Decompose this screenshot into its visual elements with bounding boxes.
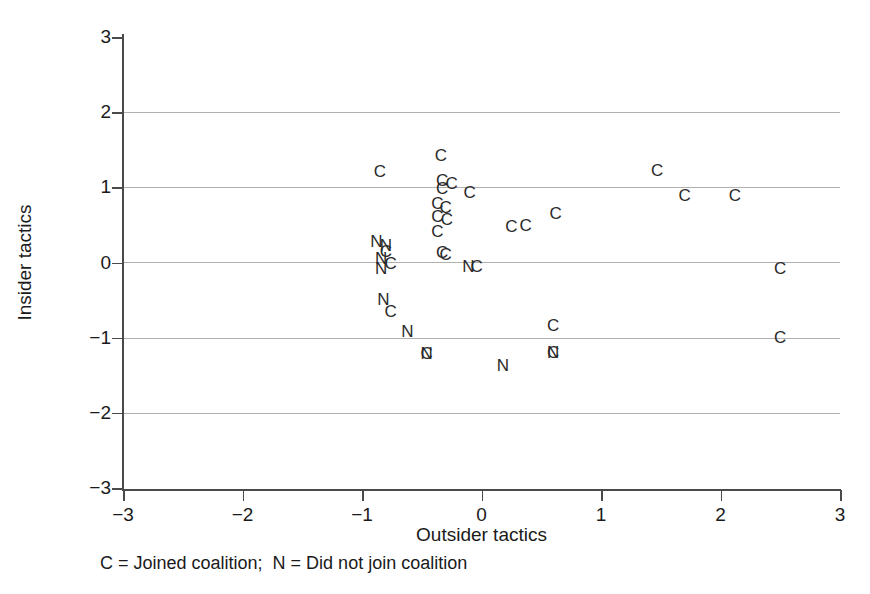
y-tick-label-4: −1 [71, 328, 111, 347]
legend-caption: C = Joined coalition; N = Did not join c… [100, 553, 467, 574]
data-point-c: C [547, 205, 565, 222]
y-tick-1 [112, 112, 123, 114]
data-point-n: N [494, 357, 512, 374]
x-axis-title: Outsider tactics [123, 524, 840, 546]
x-tick-label-1: −2 [223, 505, 263, 524]
data-point-c: C [648, 162, 666, 179]
data-point-n: N [459, 258, 477, 275]
data-point-c: C [771, 329, 789, 346]
y-tick-label-6: −3 [71, 478, 111, 497]
x-tick-label-6: 3 [820, 505, 860, 524]
y-tick-5 [112, 413, 123, 415]
data-point-c: C [437, 246, 455, 263]
y-tick-0 [112, 37, 123, 39]
gridline-y-neg2 [123, 413, 840, 414]
x-tick-label-5: 2 [701, 505, 741, 524]
y-tick-label-2: 1 [71, 177, 111, 196]
data-point-n: N [418, 345, 436, 362]
data-point-c: C [371, 163, 389, 180]
gridline-y-2 [123, 112, 840, 113]
data-point-c: C [432, 147, 450, 164]
data-point-n: N [375, 291, 393, 308]
x-tick-label-0: −3 [103, 505, 143, 524]
x-tick-label-2: −1 [342, 505, 382, 524]
y-tick-label-1: 2 [71, 102, 111, 121]
data-point-c: C [726, 187, 744, 204]
data-point-c: C [428, 223, 446, 240]
x-tick-2 [362, 490, 364, 501]
gridline-y-neg1 [123, 338, 840, 339]
x-tick-label-3: 0 [462, 505, 502, 524]
data-point-c: C [517, 217, 535, 234]
y-tick-label-5: −2 [71, 403, 111, 422]
plot-area: CCCCCCCCCCCCCCCCCCCCCCCCCCCCNNNNNNNNNN [123, 37, 840, 488]
data-point-c: C [771, 260, 789, 277]
y-tick-3 [112, 263, 123, 265]
data-point-c: C [544, 317, 562, 334]
x-tick-4 [601, 490, 603, 501]
y-tick-4 [112, 338, 123, 340]
data-point-n: N [372, 260, 390, 277]
x-tick-1 [243, 490, 245, 501]
x-tick-5 [721, 490, 723, 501]
y-tick-2 [112, 187, 123, 189]
data-point-c: C [676, 187, 694, 204]
x-tick-6 [840, 490, 842, 501]
data-point-n: N [544, 344, 562, 361]
y-tick-label-0: 3 [71, 27, 111, 46]
x-tick-label-4: 1 [581, 505, 621, 524]
y-tick-6 [112, 488, 123, 490]
scatter-plot-figure: CCCCCCCCCCCCCCCCCCCCCCCCCCCCNNNNNNNNNN 3… [0, 0, 870, 594]
y-tick-label-3: 0 [71, 253, 111, 272]
data-point-n: N [398, 323, 416, 340]
x-tick-3 [482, 490, 484, 501]
x-tick-0 [123, 490, 125, 501]
y-axis-title: Insider tactics [14, 37, 40, 488]
data-point-c: C [461, 184, 479, 201]
